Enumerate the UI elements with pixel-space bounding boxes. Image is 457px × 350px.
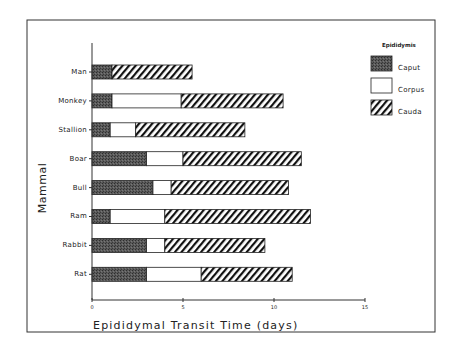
bar-ram-corpus	[110, 210, 165, 224]
category-label-boar: Boar	[70, 155, 87, 163]
bar-rat-cauda	[201, 267, 292, 281]
category-labels: ManMonkeyStallionBoarBullRamRabbitRat	[58, 68, 92, 278]
legend-swatch-corpus	[371, 78, 392, 93]
x-tick-label: 15	[362, 304, 368, 310]
category-label-monkey: Monkey	[58, 97, 87, 105]
bar-ram-caput	[92, 210, 110, 224]
x-tick-label: 10	[271, 304, 277, 310]
bar-stallion-caput	[92, 123, 110, 137]
legend-title: Epididymis	[382, 42, 417, 49]
legend-label-caput: Caput	[398, 64, 420, 72]
legend-swatch-caput	[371, 56, 392, 71]
bar-ram-cauda	[165, 210, 311, 224]
bar-bull-corpus	[153, 181, 171, 195]
bar-rat-corpus	[147, 267, 202, 281]
bars-group	[92, 65, 310, 281]
chart: ManMonkeyStallionBoarBullRamRabbitRat 05…	[0, 0, 457, 350]
bar-rat-caput	[92, 267, 147, 281]
legend: Epididymis Caput Corpus Cauda	[371, 42, 424, 116]
bar-man-cauda	[112, 65, 192, 79]
category-label-rat: Rat	[74, 270, 87, 278]
bar-monkey-cauda	[181, 94, 283, 108]
bar-rabbit-cauda	[165, 238, 265, 252]
category-label-man: Man	[71, 68, 87, 76]
y-axis-label: Mammal	[36, 163, 49, 213]
bar-boar-corpus	[147, 152, 183, 166]
bar-rabbit-caput	[92, 238, 147, 252]
x-axis-label: Epididymal Transit Time (days)	[93, 319, 298, 332]
bar-monkey-corpus	[112, 94, 181, 108]
bar-stallion-cauda	[136, 123, 245, 137]
legend-label-corpus: Corpus	[398, 86, 424, 94]
legend-swatch-cauda	[371, 100, 392, 115]
bar-boar-cauda	[183, 152, 301, 166]
legend-label-cauda: Cauda	[398, 108, 422, 116]
category-label-bull: Bull	[73, 184, 87, 192]
category-label-stallion: Stallion	[59, 126, 87, 134]
bar-bull-cauda	[171, 181, 288, 195]
category-label-ram: Ram	[70, 212, 87, 220]
bar-bull-caput	[92, 181, 153, 195]
bar-boar-caput	[92, 152, 147, 166]
bar-rabbit-corpus	[147, 238, 165, 252]
bar-stallion-corpus	[110, 123, 135, 137]
x-tick-label: 5	[181, 304, 184, 310]
x-tick-label: 0	[90, 304, 93, 310]
bar-man-caput	[92, 65, 112, 79]
bar-monkey-caput	[92, 94, 112, 108]
category-label-rabbit: Rabbit	[63, 241, 87, 249]
